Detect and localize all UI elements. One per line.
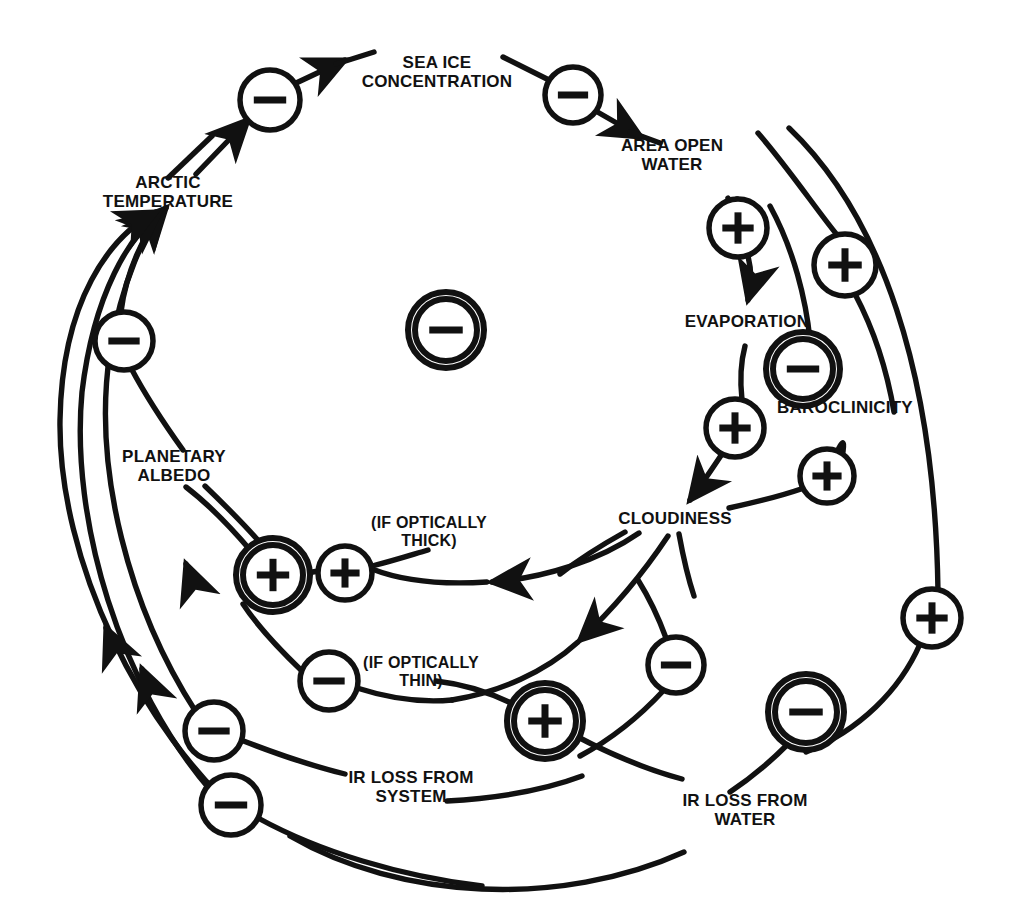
negative-polarity-marker <box>545 67 601 123</box>
negative-polarity-marker <box>201 775 261 835</box>
negative-polarity-marker <box>766 332 840 406</box>
positive-polarity-marker <box>903 589 961 647</box>
minus-icon <box>198 728 229 735</box>
plus-icon-vertical <box>542 704 549 737</box>
negative-polarity-marker <box>408 292 484 368</box>
minus-icon <box>789 709 822 716</box>
plus-icon-vertical <box>929 602 936 633</box>
positive-polarity-marker <box>709 199 767 257</box>
minus-icon <box>558 92 588 99</box>
plus-icon-vertical <box>732 412 739 443</box>
positive-polarity-marker <box>507 683 583 759</box>
minus-icon <box>429 327 462 334</box>
minus-icon <box>313 678 344 685</box>
positive-polarity-marker <box>318 546 372 600</box>
negative-polarity-marker <box>300 652 358 710</box>
minus-icon <box>215 802 247 809</box>
negative-polarity-marker <box>185 702 243 760</box>
positive-polarity-marker <box>814 234 876 296</box>
plus-icon-vertical <box>824 461 831 490</box>
minus-icon <box>661 662 691 669</box>
plus-icon-vertical <box>735 212 742 243</box>
plus-icon-vertical <box>842 248 849 281</box>
minus-icon <box>108 338 139 345</box>
positive-polarity-marker <box>800 449 854 503</box>
negative-polarity-marker <box>240 70 300 130</box>
negative-polarity-marker <box>648 637 704 693</box>
positive-polarity-marker <box>706 399 764 457</box>
minus-icon <box>254 97 286 104</box>
plus-icon-vertical <box>342 558 349 587</box>
positive-polarity-marker <box>236 538 310 612</box>
plus-icon-vertical <box>270 559 277 591</box>
minus-icon <box>787 366 819 373</box>
negative-polarity-marker <box>768 674 844 750</box>
polarity-marker-layer <box>0 0 1019 922</box>
negative-polarity-marker <box>95 312 153 370</box>
causal-loop-diagram: SEA ICE CONCENTRATION ARCTIC TEMPERATURE… <box>0 0 1019 922</box>
